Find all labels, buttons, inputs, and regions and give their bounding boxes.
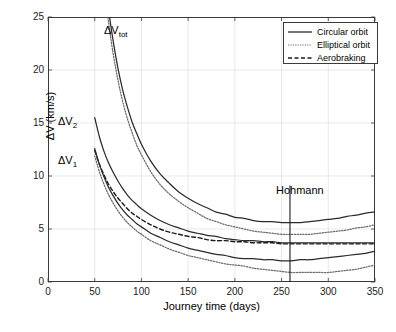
- y-tick-label: 20: [16, 64, 44, 75]
- legend-item-circular: Circular orbit: [287, 26, 377, 38]
- annotation-delta-v-tot: ΔVtot: [104, 24, 128, 39]
- data-series-curve: [95, 151, 375, 244]
- annotation-hohmann: Hohmann: [276, 184, 324, 196]
- x-tick-label: 300: [313, 286, 343, 297]
- y-tick-label: 5: [16, 223, 44, 234]
- legend-label-elliptical: Elliptical orbit: [317, 40, 370, 50]
- y-tick-label: 10: [16, 170, 44, 181]
- y-tick-label: 0: [16, 276, 44, 287]
- annotation-dv1-base: ΔV: [58, 154, 73, 166]
- x-tick-label: 0: [33, 286, 63, 297]
- x-tick-label: 200: [220, 286, 250, 297]
- y-tick-label: 25: [16, 11, 44, 22]
- x-tick-label: 150: [173, 286, 203, 297]
- annotation-dvtot-base: ΔV: [104, 24, 119, 36]
- annotation-dvtot-sub: tot: [119, 30, 128, 39]
- annotation-dv2-sub: 2: [73, 121, 77, 130]
- x-tick-label: 250: [267, 286, 297, 297]
- x-axis-title: Journey time (days): [48, 300, 375, 312]
- annotation-dv2-base: ΔV: [58, 115, 73, 127]
- annotation-dv1-sub: 1: [73, 160, 77, 169]
- annotation-delta-v-1: ΔV1: [58, 154, 77, 169]
- x-tick-label: 100: [126, 286, 156, 297]
- data-series-curve: [95, 156, 375, 273]
- legend-label-aerobraking: Aerobraking: [317, 53, 366, 63]
- chart-legend: Circular orbit Elliptical orbit Aerobrak…: [283, 22, 378, 64]
- x-tick-label: 50: [80, 286, 110, 297]
- legend-sample-dashed-icon: [287, 53, 313, 63]
- y-axis-title: ΔV (km/s): [44, 56, 56, 176]
- legend-label-circular: Circular orbit: [317, 27, 368, 37]
- legend-item-aerobraking: Aerobraking: [287, 52, 377, 64]
- annotation-delta-v-2: ΔV2: [58, 115, 77, 130]
- legend-sample-dotted-icon: [287, 40, 313, 50]
- chart-figure: 0501001502002503003500510152025 ΔV (km/s…: [0, 0, 396, 332]
- legend-sample-solid-icon: [287, 27, 313, 37]
- y-tick-label: 15: [16, 117, 44, 128]
- legend-item-elliptical: Elliptical orbit: [287, 39, 377, 51]
- x-tick-label: 350: [360, 286, 390, 297]
